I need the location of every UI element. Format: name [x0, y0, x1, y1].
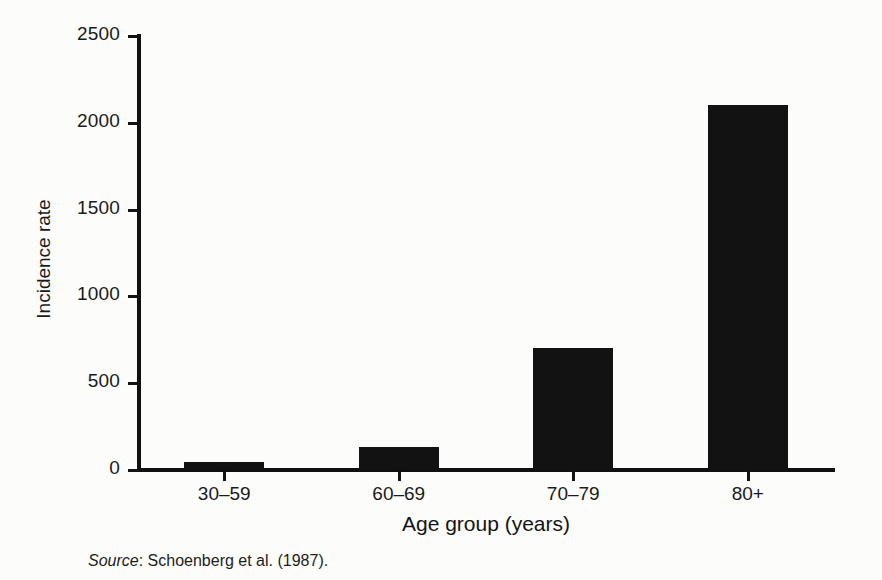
- bar-chart: 05001000150020002500 30–5960–6970–7980+ …: [0, 0, 882, 580]
- y-tick-label: 2000: [48, 110, 120, 132]
- source-separator: :: [139, 552, 148, 569]
- bar: [359, 447, 439, 470]
- y-tick-label: 0: [48, 457, 120, 479]
- source-citation: Schoenberg et al. (1987).: [148, 552, 329, 569]
- y-tick-mark: [128, 295, 138, 298]
- bar: [708, 105, 788, 470]
- y-tick-label: 1500: [48, 197, 120, 219]
- x-tick-mark: [223, 470, 226, 481]
- bar: [533, 348, 613, 470]
- y-tick-mark: [128, 122, 138, 125]
- y-tick-mark: [128, 35, 138, 38]
- y-axis-title: Incidence rate: [33, 179, 55, 339]
- x-axis-title: Age group (years): [137, 512, 835, 536]
- y-tick-mark: [128, 382, 138, 385]
- source-note: Source: Schoenberg et al. (1987).: [88, 552, 328, 570]
- x-tick-label: 80+: [678, 483, 818, 505]
- y-axis-line: [137, 34, 141, 472]
- x-tick-label: 60–69: [329, 483, 469, 505]
- source-label: Source: [88, 552, 139, 569]
- y-tick-label: 1000: [48, 283, 120, 305]
- x-tick-label: 30–59: [154, 483, 294, 505]
- y-tick-label: 500: [48, 370, 120, 392]
- y-tick-label: 2500: [48, 23, 120, 45]
- y-tick-mark: [128, 469, 138, 472]
- x-tick-mark: [747, 470, 750, 481]
- bar: [184, 462, 264, 470]
- x-tick-mark: [572, 470, 575, 481]
- x-tick-mark: [398, 470, 401, 481]
- x-tick-label: 70–79: [503, 483, 643, 505]
- y-tick-mark: [128, 209, 138, 212]
- figure-page: 05001000150020002500 30–5960–6970–7980+ …: [0, 0, 882, 580]
